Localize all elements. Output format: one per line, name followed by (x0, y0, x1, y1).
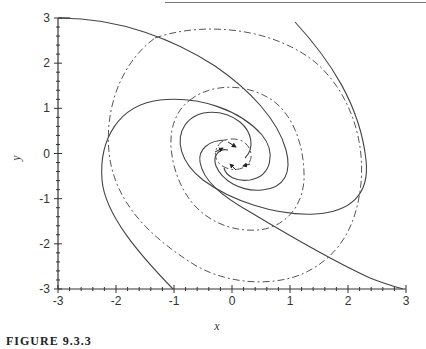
trajectory-dashdot-outer (108, 29, 361, 282)
axes (58, 18, 406, 289)
x-tick-label: 3 (403, 294, 410, 308)
y-tick-label: -1 (39, 192, 50, 206)
arrow-icon (228, 142, 236, 147)
direction-arrows (215, 142, 250, 170)
x-axis-label: x (213, 319, 220, 333)
y-tick-label: -3 (39, 282, 50, 296)
trajectories (60, 18, 403, 289)
y-tick-label: 1 (43, 101, 50, 115)
y-tick-label: 0 (43, 147, 50, 161)
x-tick-label: -2 (111, 294, 122, 308)
x-tick-labels: -3 -2 -1 0 1 2 3 (53, 294, 410, 308)
y-tick-label: 2 (43, 56, 50, 70)
x-tick-label: 1 (287, 294, 294, 308)
y-tick-labels: 3 2 1 0 -1 -2 -3 (39, 11, 50, 296)
y-tick-label: 3 (43, 11, 50, 25)
x-tick-label: 2 (345, 294, 352, 308)
x-tick-label: 0 (229, 294, 236, 308)
trajectory-solid-b (180, 22, 366, 214)
y-axis-label: y (9, 155, 23, 162)
trajectory-solid-a (60, 18, 288, 190)
x-tick-label: -1 (169, 294, 180, 308)
trajectory-dashdot-middle (171, 87, 304, 230)
x-tick-label: -3 (53, 294, 64, 308)
figure-caption: FIGURE 9.3.3 (6, 334, 92, 349)
y-tick-label: -2 (39, 237, 50, 251)
